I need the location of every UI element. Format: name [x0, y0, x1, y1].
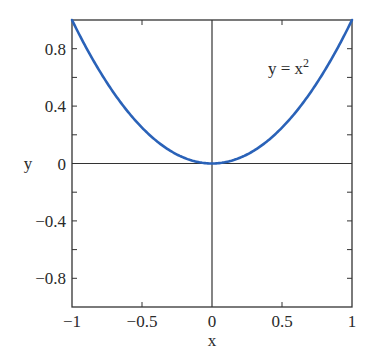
- y-tick-label: 0.8: [45, 40, 66, 59]
- x-axis-title: x: [208, 331, 217, 350]
- y-tick-label: −0.4: [35, 212, 66, 231]
- y-tick-label: 0: [58, 155, 67, 174]
- chart: −1−0.500.51 −0.8−0.400.40.8 x y y = x2: [0, 0, 371, 356]
- y-tick-label: −0.8: [35, 269, 66, 288]
- y-axis-title: y: [24, 154, 33, 173]
- x-tick-label: −0.5: [127, 312, 158, 331]
- y-tick-labels: −0.8−0.400.40.8: [35, 40, 66, 289]
- x-tick-labels: −1−0.500.51: [63, 312, 356, 331]
- annotation-superscript: 2: [303, 56, 309, 70]
- annotation-base: y = x: [268, 59, 304, 78]
- x-tick-label: 0.5: [271, 312, 292, 331]
- x-tick-label: 1: [348, 312, 357, 331]
- curve-annotation: y = x2: [268, 56, 309, 78]
- x-tick-label: 0: [208, 312, 217, 331]
- x-tick-label: −1: [63, 312, 81, 331]
- y-tick-label: 0.4: [45, 97, 67, 116]
